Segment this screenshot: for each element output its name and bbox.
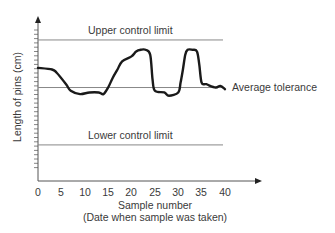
x-tick-40: 40 [215, 186, 235, 198]
x-tick-20: 20 [121, 186, 141, 198]
x-tick-35: 35 [191, 186, 211, 198]
y-axis-label: Length of pins (cm) [11, 42, 23, 152]
y-axis-arrow-icon [35, 16, 41, 23]
x-tick-15: 15 [98, 186, 118, 198]
x-axis-label: Sample number [60, 199, 250, 211]
average-tolerance-label: Average tolerance [232, 81, 317, 93]
upper-control-limit-label: Upper control limit [88, 24, 173, 36]
x-tick-25: 25 [145, 186, 165, 198]
x-axis-arrow-icon [255, 178, 262, 184]
sample-length-curve [38, 49, 225, 95]
x-tick-0: 0 [28, 186, 48, 198]
lower-control-limit-label: Lower control limit [88, 129, 173, 141]
x-tick-10: 10 [75, 186, 95, 198]
x-tick-5: 5 [51, 186, 71, 198]
x-tick-30: 30 [168, 186, 188, 198]
x-axis-sublabel: (Date when sample was taken) [60, 211, 250, 223]
y-axis-ticks [34, 30, 38, 168]
